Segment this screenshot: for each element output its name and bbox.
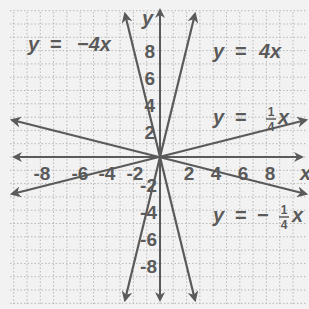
y-tick: -2: [140, 175, 157, 196]
equation-y-quarter-x: y = 1 4 x: [212, 105, 290, 134]
equation-y-neg4x: y = −4x: [27, 33, 112, 55]
svg-text:x: x: [277, 106, 290, 128]
svg-text:y: y: [212, 106, 225, 128]
equation-y-neg-quarter-x: y = − 1 4 x: [212, 203, 304, 232]
svg-text:−4x: −4x: [77, 33, 112, 55]
y-tick: 2: [144, 122, 155, 143]
y-tick: 6: [144, 68, 155, 89]
x-tick: 8: [265, 163, 276, 184]
y-tick: 4: [144, 95, 155, 116]
x-tick: 6: [238, 163, 249, 184]
svg-text:y: y: [212, 40, 225, 62]
x-axis-label: x: [299, 162, 309, 184]
svg-text:4: 4: [268, 120, 275, 134]
x-tick: -4: [99, 163, 116, 184]
y-tick: -8: [140, 256, 157, 277]
svg-text:1: 1: [268, 105, 275, 119]
svg-text:=: =: [50, 33, 62, 55]
svg-text:1: 1: [281, 203, 288, 217]
x-tick: 2: [184, 163, 195, 184]
y-tick: -4: [140, 202, 157, 223]
svg-text:x: x: [291, 204, 304, 226]
y-axis-label: y: [141, 7, 154, 29]
y-tick: -6: [140, 229, 157, 250]
svg-text:=: =: [235, 204, 247, 226]
svg-text:y: y: [27, 33, 40, 55]
x-tick: -8: [34, 163, 51, 184]
svg-text:=: =: [235, 106, 247, 128]
coordinate-graph: y x -8 -6 -4 -2 2 4 6 8 8 6 4 2 -2 -4 -6…: [0, 0, 309, 309]
svg-text:4x: 4x: [258, 40, 282, 62]
y-tick: 8: [144, 41, 155, 62]
svg-text:=: =: [235, 40, 247, 62]
svg-text:4: 4: [281, 218, 288, 232]
svg-text:−: −: [257, 204, 269, 226]
x-tick: -6: [72, 163, 89, 184]
equation-y-4x: y = 4x: [212, 40, 282, 62]
x-tick: 4: [211, 163, 222, 184]
svg-text:y: y: [212, 204, 225, 226]
